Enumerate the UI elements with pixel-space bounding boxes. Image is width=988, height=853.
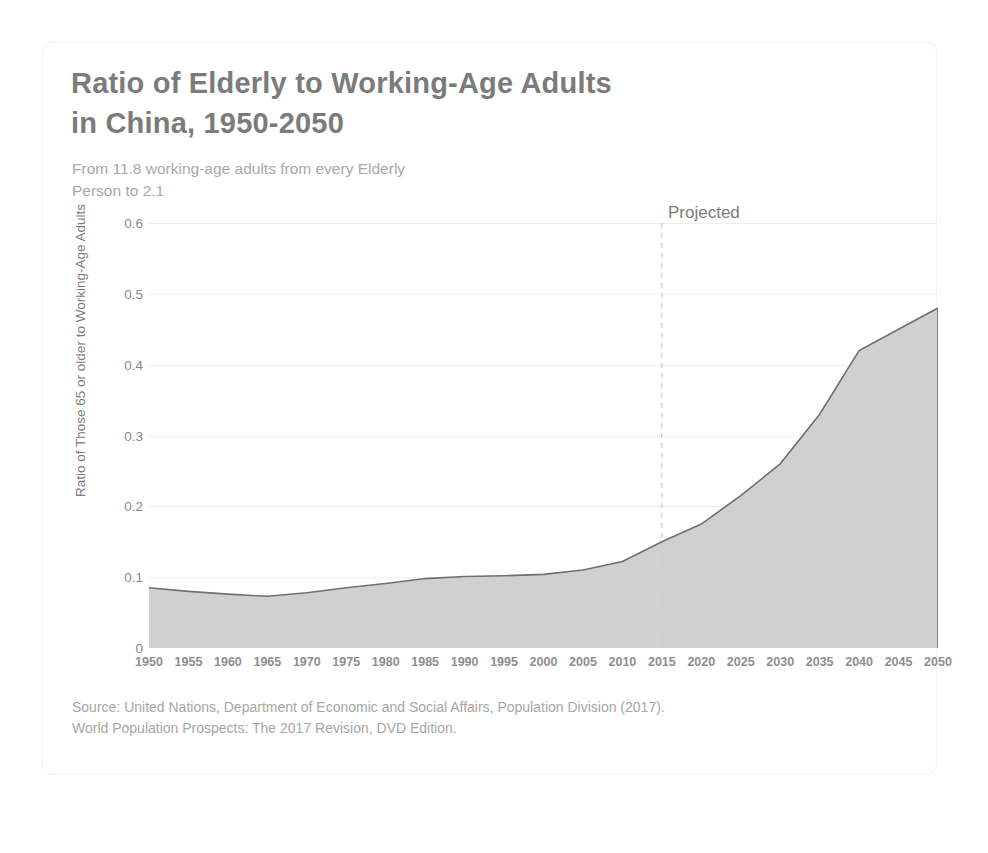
x-axis-tick-label: 2030 (766, 655, 794, 669)
y-axis-ticks: 0.60.50.40.30.20.10 (81, 43, 143, 776)
y-axis-tick-label: 0.6 (83, 216, 143, 231)
x-axis-tick-label: 1985 (411, 655, 439, 669)
chart-page: Ratio of Elderly to Working-Age Adults i… (0, 0, 988, 853)
series-area-chart (149, 223, 938, 648)
x-axis-tick-label: 1980 (372, 655, 400, 669)
x-axis-tick-label: 2000 (530, 655, 558, 669)
projected-annotation: Projected (668, 203, 740, 223)
x-axis-tick-label: 1995 (490, 655, 518, 669)
y-axis-tick-label: 0.2 (83, 499, 143, 514)
x-axis-tick-label: 2035 (806, 655, 834, 669)
x-axis-tick-label: 2015 (648, 655, 676, 669)
y-axis-tick-label: 0.1 (83, 570, 143, 585)
x-axis-tick-label: 2010 (608, 655, 636, 669)
x-axis-tick-label: 2020 (687, 655, 715, 669)
x-axis-tick-label: 1990 (451, 655, 479, 669)
source-line-1: Source: United Nations, Department of Ec… (72, 697, 892, 718)
chart-card: Ratio of Elderly to Working-Age Adults i… (42, 42, 937, 775)
x-axis-tick-label: 2050 (924, 655, 952, 669)
y-axis-tick-label: 0 (83, 641, 143, 656)
x-axis-tick-label: 1975 (332, 655, 360, 669)
x-axis-tick-label: 1950 (135, 655, 163, 669)
y-axis-tick-label: 0.3 (83, 428, 143, 443)
y-axis-tick-label: 0.4 (83, 357, 143, 372)
grid-and-series (149, 223, 938, 648)
x-axis-tick-label: 2005 (569, 655, 597, 669)
x-axis-ticks: 1950195519601965197019751980198519901995… (149, 655, 938, 675)
x-axis-tick-label: 2045 (885, 655, 913, 669)
plot-area: Projected Ratio of Those 65 or older to … (43, 43, 938, 776)
x-axis-tick-label: 2040 (845, 655, 873, 669)
x-axis-tick-label: 1965 (253, 655, 281, 669)
x-axis-tick-label: 2025 (727, 655, 755, 669)
y-axis-tick-label: 0.5 (83, 286, 143, 301)
x-axis-tick-label: 1960 (214, 655, 242, 669)
x-axis-tick-label: 1955 (175, 655, 203, 669)
x-axis-tick-label: 1970 (293, 655, 321, 669)
source-line-2: World Population Prospects: The 2017 Rev… (72, 718, 892, 739)
source-note: Source: United Nations, Department of Ec… (72, 697, 892, 739)
